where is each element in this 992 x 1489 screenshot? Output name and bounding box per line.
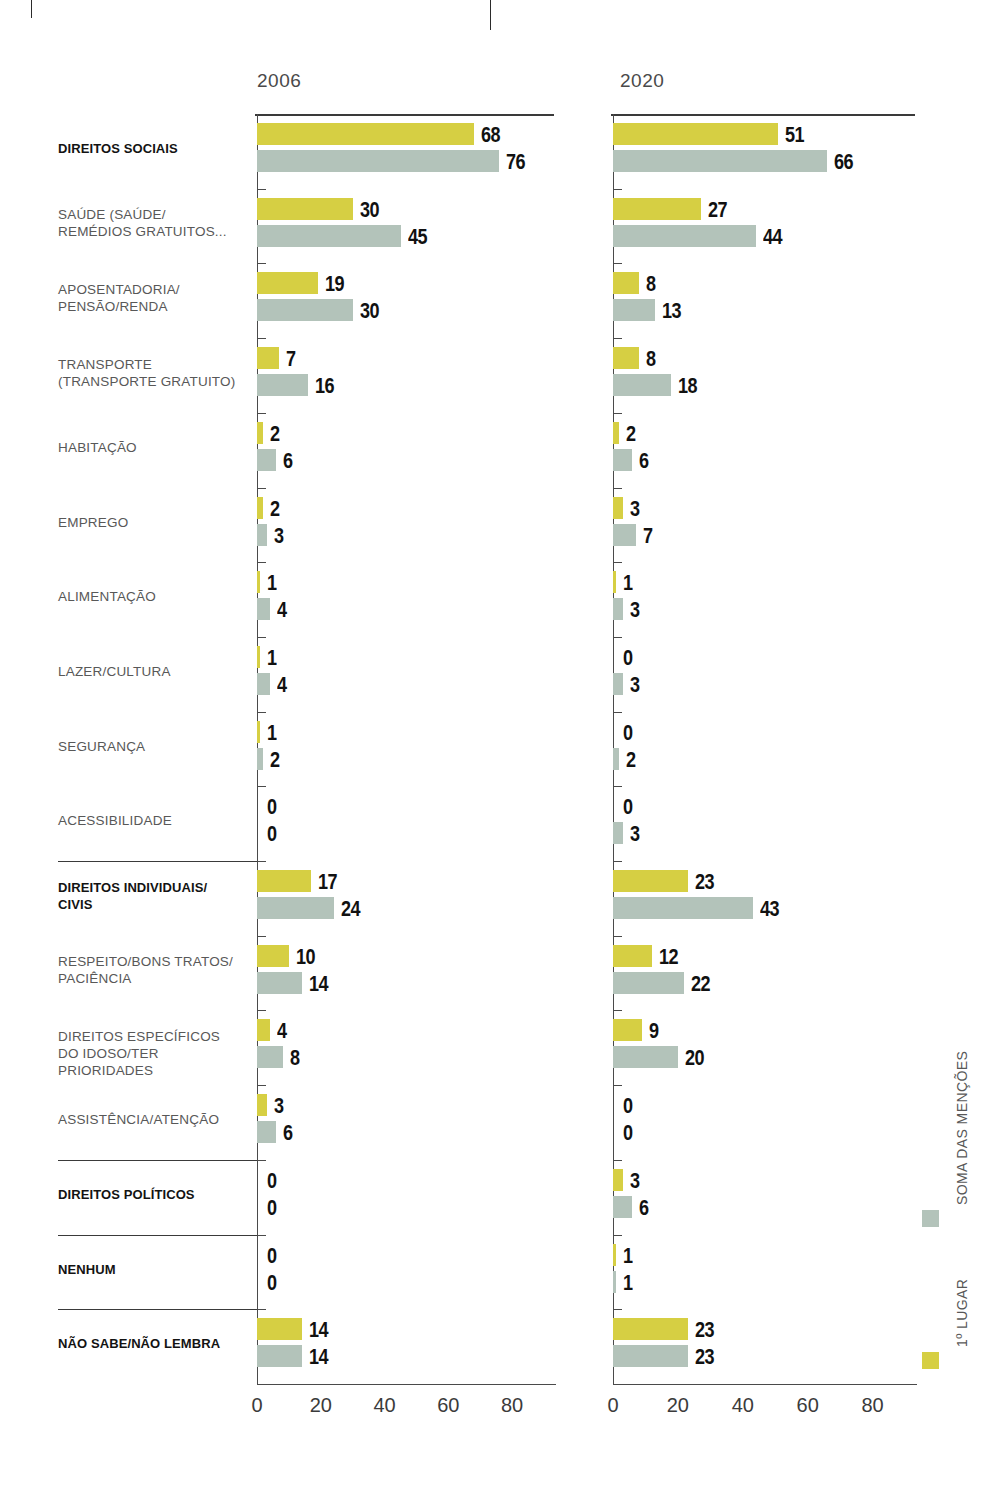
bar-first-place bbox=[613, 1019, 642, 1041]
bar-value-label: 0 bbox=[623, 1122, 633, 1144]
y-axis-tick bbox=[613, 1010, 622, 1011]
bar-first-place bbox=[257, 721, 260, 743]
bar-value-label: 16 bbox=[315, 375, 334, 397]
bar-first-place bbox=[257, 945, 289, 967]
bar-total-mentions bbox=[613, 822, 623, 844]
y-axis-tick bbox=[613, 189, 622, 190]
bar-value-label: 3 bbox=[630, 1170, 640, 1192]
bar-value-label: 30 bbox=[360, 300, 379, 322]
category-label-line: DIREITOS POLÍTICOS bbox=[58, 1186, 254, 1203]
bar-value-label: 51 bbox=[785, 124, 804, 146]
bar-value-label: 3 bbox=[274, 1095, 284, 1117]
category-label-6: ALIMENTAÇÃO bbox=[58, 588, 254, 605]
bar-value-label: 6 bbox=[283, 1122, 293, 1144]
bar-first-place bbox=[257, 1318, 302, 1340]
y-axis-tick bbox=[257, 712, 266, 713]
x-axis-line bbox=[613, 1384, 917, 1385]
panel-top-rule bbox=[255, 114, 554, 116]
bar-value-label: 0 bbox=[623, 647, 633, 669]
bar-value-label: 19 bbox=[325, 273, 344, 295]
y-axis-tick bbox=[257, 488, 266, 489]
category-label-16: NÃO SABE/NÃO LEMBRA bbox=[58, 1335, 254, 1352]
x-axis-tick-label: 80 bbox=[492, 1394, 532, 1417]
y-axis-tick bbox=[613, 1235, 622, 1236]
bar-value-label: 0 bbox=[267, 1170, 277, 1192]
bar-value-label: 1 bbox=[267, 722, 277, 744]
bar-first-place bbox=[613, 945, 652, 967]
y-axis-tick bbox=[257, 1010, 266, 1011]
bar-total-mentions bbox=[613, 1271, 616, 1293]
category-label-line: DIREITOS ESPECÍFICOS bbox=[58, 1028, 254, 1045]
category-label-9: ACESSIBILIDADE bbox=[58, 812, 254, 829]
bar-value-label: 2 bbox=[270, 423, 280, 445]
y-axis-tick bbox=[613, 861, 622, 862]
category-label-line: DIREITOS INDIVIDUAIS/ bbox=[58, 879, 254, 896]
x-axis-tick-label: 20 bbox=[658, 1394, 698, 1417]
bar-value-label: 45 bbox=[408, 226, 427, 248]
bar-first-place bbox=[613, 272, 639, 294]
category-label-line: PENSÃO/RENDA bbox=[58, 298, 254, 315]
bar-first-place bbox=[613, 497, 623, 519]
bar-first-place bbox=[613, 198, 701, 220]
bar-value-label: 23 bbox=[695, 871, 714, 893]
y-axis-tick bbox=[257, 861, 266, 862]
bar-first-place bbox=[613, 1318, 688, 1340]
legend-swatch-first bbox=[922, 1352, 939, 1369]
x-axis-tick-label: 0 bbox=[237, 1394, 277, 1417]
y-axis-tick bbox=[613, 263, 622, 264]
y-axis-tick bbox=[257, 1160, 266, 1161]
bar-value-label: 8 bbox=[290, 1047, 300, 1069]
bar-value-label: 1 bbox=[267, 572, 277, 594]
x-axis-tick-label: 40 bbox=[723, 1394, 763, 1417]
bar-value-label: 4 bbox=[277, 599, 287, 621]
bar-value-label: 2 bbox=[270, 749, 280, 771]
bar-value-label: 0 bbox=[267, 1197, 277, 1219]
bar-value-label: 76 bbox=[506, 151, 525, 173]
category-label-2: APOSENTADORIA/PENSÃO/RENDA bbox=[58, 281, 254, 315]
bar-total-mentions bbox=[613, 972, 684, 994]
y-axis-tick bbox=[257, 1309, 266, 1310]
crop-mark-center bbox=[490, 0, 491, 30]
bar-value-label: 22 bbox=[691, 973, 710, 995]
bar-total-mentions bbox=[257, 748, 263, 770]
category-label-line: REMÉDIOS GRATUITOS... bbox=[58, 223, 254, 240]
y-axis-tick bbox=[613, 562, 622, 563]
legend-swatch-total bbox=[922, 1210, 939, 1227]
bar-total-mentions bbox=[613, 225, 756, 247]
bar-value-label: 2 bbox=[626, 749, 636, 771]
category-label-line: ASSISTÊNCIA/ATENÇÃO bbox=[58, 1111, 254, 1128]
category-label-line: NENHUM bbox=[58, 1261, 254, 1278]
category-label-13: ASSISTÊNCIA/ATENÇÃO bbox=[58, 1111, 254, 1128]
group-separator-rule bbox=[58, 1160, 257, 1161]
bar-value-label: 6 bbox=[639, 450, 649, 472]
bar-first-place bbox=[257, 870, 311, 892]
x-axis-tick-label: 60 bbox=[428, 1394, 468, 1417]
bar-value-label: 17 bbox=[318, 871, 337, 893]
bar-first-place bbox=[257, 571, 260, 593]
y-axis-tick bbox=[257, 413, 266, 414]
category-label-3: TRANSPORTE(TRANSPORTE GRATUITO) bbox=[58, 356, 254, 390]
bar-first-place bbox=[257, 497, 263, 519]
bar-value-label: 0 bbox=[623, 1095, 633, 1117]
bar-first-place bbox=[613, 347, 639, 369]
bar-value-label: 66 bbox=[834, 151, 853, 173]
bar-total-mentions bbox=[257, 1121, 276, 1143]
x-axis-tick-label: 20 bbox=[301, 1394, 341, 1417]
x-axis-tick-label: 0 bbox=[593, 1394, 633, 1417]
bar-total-mentions bbox=[257, 225, 401, 247]
category-label-line: (TRANSPORTE GRATUITO) bbox=[58, 373, 254, 390]
category-label-5: EMPREGO bbox=[58, 514, 254, 531]
category-label-0: DIREITOS SOCIAIS bbox=[58, 140, 254, 157]
bar-value-label: 6 bbox=[283, 450, 293, 472]
crop-mark-left bbox=[31, 0, 32, 18]
bar-total-mentions bbox=[257, 524, 267, 546]
bar-first-place bbox=[613, 1169, 623, 1191]
category-label-8: SEGURANÇA bbox=[58, 738, 254, 755]
category-label-line: NÃO SABE/NÃO LEMBRA bbox=[58, 1335, 254, 1352]
bar-total-mentions bbox=[613, 748, 619, 770]
bar-value-label: 44 bbox=[763, 226, 782, 248]
category-label-line: PACIÊNCIA bbox=[58, 970, 254, 987]
category-label-14: DIREITOS POLÍTICOS bbox=[58, 1186, 254, 1203]
bar-total-mentions bbox=[613, 1345, 688, 1367]
y-axis-tick bbox=[613, 338, 622, 339]
